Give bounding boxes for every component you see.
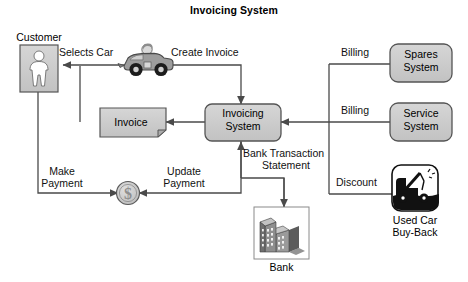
tow-truck-icon xyxy=(392,165,439,211)
node-customer[interactable] xyxy=(20,45,58,92)
label-bank: Bank xyxy=(254,261,309,273)
edge-label-billing-spares: Billing xyxy=(341,47,369,59)
node-bank[interactable] xyxy=(254,207,309,259)
edge-label-billing-service: Billing xyxy=(341,105,369,117)
edge-label-bts-line1: Bank Transaction xyxy=(243,148,324,160)
edge-label-make-payment-line1: Make xyxy=(30,166,94,178)
edge-label-make-payment-line2: Payment xyxy=(30,178,94,190)
edge-label-create-invoice: Create Invoice xyxy=(171,47,239,59)
edge-label-discount: Discount xyxy=(336,177,377,189)
edge-bank-to-invoicing-h xyxy=(241,178,284,207)
node-invoicing-system[interactable] xyxy=(205,104,281,141)
edge-create-invoice xyxy=(168,65,241,104)
car-icon xyxy=(118,43,173,76)
label-usedcar-line2: Buy-Back xyxy=(383,226,447,238)
label-usedcar-line1: Used Car xyxy=(383,214,447,226)
edge-label-update-payment-line2: Payment xyxy=(152,178,216,190)
node-used-car-buyback[interactable] xyxy=(392,165,439,211)
node-service-system[interactable] xyxy=(390,103,452,141)
node-invoice[interactable] xyxy=(100,108,166,137)
node-spares-system[interactable] xyxy=(390,44,452,82)
edge-label-update-payment-line1: Update xyxy=(152,166,216,178)
edge-label-selects-car: Selects Car xyxy=(59,47,113,59)
dollar-glyph: $ xyxy=(124,185,132,202)
node-car[interactable] xyxy=(118,43,173,76)
node-payment-coin[interactable]: $ xyxy=(117,182,140,205)
label-customer: Customer xyxy=(0,31,78,43)
edge-label-bts-line2: Statement xyxy=(243,160,329,172)
